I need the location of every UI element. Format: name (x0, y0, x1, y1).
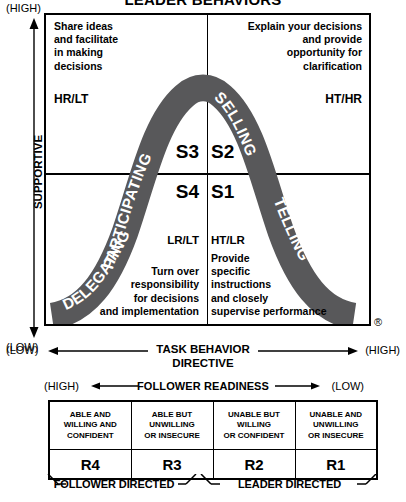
readiness-description-r2: UNABLE BUT WILLING OR CONFIDENT (213, 401, 295, 450)
quadrant-top-left-description: Share ideas and facilitate in making dec… (54, 20, 118, 73)
task-axis-title: TASK BEHAVIOR DIRECTIVE (0, 342, 406, 370)
readiness-description-r3: ABLE BUT UNWILLING OR INSECURE (131, 401, 213, 450)
quadrant-top-right-code: HT/HR (325, 93, 362, 106)
situational-leadership-diagram: LEADER BEHAVIORS (HIGH) (LOW) SUPPORTIVE… (0, 0, 406, 502)
style-label-s4: S4 (176, 181, 199, 203)
quadrant-bottom-left-code: LR/LT (167, 234, 199, 247)
quadrant-top-right-description: Explain your decisions and provide oppor… (248, 20, 362, 73)
task-behavior-axis: (LOW) (HIGH) TASK BEHAVIOR DIRECTIVE (0, 342, 406, 374)
style-label-s3: S3 (176, 141, 199, 163)
style-label-s2: S2 (211, 141, 234, 163)
brace-label-leader-directed: LEADER DIRECTED (202, 478, 377, 490)
quadrant-bottom-right-code: HT/LR (211, 234, 245, 247)
style-label-s1: S1 (211, 181, 234, 203)
registered-trademark-icon: ® (374, 316, 382, 328)
direction-braces: FOLLOWER DIRECTED LEADER DIRECTED (0, 474, 406, 500)
brace-label-follower-directed: FOLLOWER DIRECTED (30, 478, 198, 490)
page-title: LEADER BEHAVIORS (0, 0, 406, 8)
follower-readiness-axis: (HIGH) (LOW) FOLLOWER READINESS (0, 378, 406, 398)
readiness-description-r4: ABLE AND WILLING AND CONFIDENT (49, 401, 131, 450)
y-axis-title-line1: SUPPORTIVE (32, 135, 44, 209)
task-axis-title-line2: DIRECTIVE (0, 356, 406, 370)
readiness-table: ABLE AND WILLING AND CONFIDENT ABLE BUT … (48, 400, 378, 480)
y-axis-high-label: (HIGH) (6, 2, 41, 14)
readiness-description-r1: UNABLE AND UNWILLING OR INSECURE (295, 401, 377, 450)
quadrant-bottom-right-description: Provide specific instructions and closel… (211, 252, 327, 318)
leadership-matrix: PARTICIPATING SELLING TELLING DELEGATING… (44, 13, 371, 326)
table-row-descriptions: ABLE AND WILLING AND CONFIDENT ABLE BUT … (49, 401, 377, 450)
quadrant-bottom-left-description: Turn over responsibility for decisions a… (100, 265, 199, 318)
follower-readiness-title: FOLLOWER READINESS (0, 380, 406, 392)
quadrant-top-left-code: HR/LT (54, 93, 88, 106)
task-axis-title-line1: TASK BEHAVIOR (156, 343, 250, 355)
